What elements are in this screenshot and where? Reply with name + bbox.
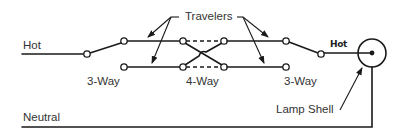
right-3way-switch [283,38,324,70]
terminal-top [283,38,289,44]
terminal-common [84,51,90,57]
terminal-bottom [121,64,127,70]
terminal-common [318,51,324,57]
handwritten-hot-label: Hot [330,39,348,49]
terminal-left-bottom [180,64,186,70]
left-switch-label: 3-Way [87,75,120,87]
middle-switch-label: 4-Way [186,75,219,87]
wiring-diagram: Hot 3-Way 4-Way 3-Way Hot [0,0,407,135]
lamp-shell-arrow [340,68,362,110]
travelers-label: Travelers [185,10,233,22]
four-way-switch [180,38,227,70]
right-switch-label: 3-Way [284,75,317,87]
left-3way-switch [84,38,180,70]
terminal-left-top [180,38,186,44]
lamp-shell-label: Lamp Shell [276,103,334,115]
terminal-top [121,38,127,44]
terminal-bottom [283,64,289,70]
neutral-label: Neutral [23,111,60,123]
hot-label: Hot [23,39,42,51]
